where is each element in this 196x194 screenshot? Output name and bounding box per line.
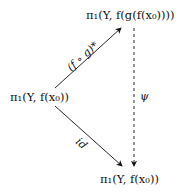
node-top: π₁(Y, f(g(f(x₀)))) xyxy=(86,8,174,22)
label-vertical-arrow: ψ xyxy=(140,90,149,103)
node-bottom: π₁(Y, f(x₀)) xyxy=(100,172,159,186)
commutative-diagram: π₁(Y, f(g(f(x₀)))) π₁(Y, f(x₀)) π₁(Y, f(… xyxy=(0,0,196,194)
node-left: π₁(Y, f(x₀)) xyxy=(10,90,69,104)
arrow-lower xyxy=(55,106,122,166)
